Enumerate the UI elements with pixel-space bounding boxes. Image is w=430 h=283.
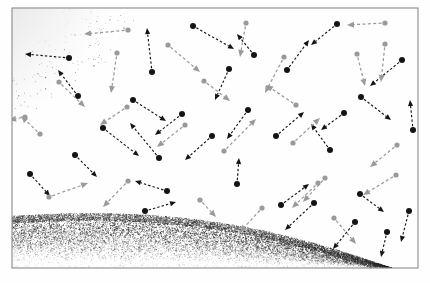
dark-particle-dot [156,155,162,161]
dark-particle-dot [72,152,78,158]
light-particle-dot [290,140,295,145]
dark-particle-dot [179,111,185,117]
dark-particle-dot [352,219,358,225]
dark-particle-dot [66,55,72,61]
dark-particle-dot [327,147,333,153]
figure-canvas [0,0,430,283]
light-particle-dot [331,215,336,220]
light-particle-dot [281,54,286,59]
light-particle-dot [56,79,61,84]
dark-particle-dot [226,66,232,72]
particle-motion-figure [0,0,430,283]
dark-particle-dot [334,21,340,27]
light-particle-dot [46,194,51,199]
light-particle-dot [165,42,170,47]
dark-particle-dot [406,208,412,214]
light-particle-dot [182,122,187,127]
dark-particle-dot [341,110,347,116]
dark-particle-dot [311,200,317,206]
dark-particle-dot [164,188,170,194]
light-particle-dot [259,205,264,210]
dark-particle-dot [234,181,240,187]
dark-particle-dot [142,208,148,214]
light-particle-dot [293,102,298,107]
light-particle-dot [322,175,327,180]
light-particle-dot [125,27,130,32]
dark-particle-dot [399,57,405,63]
dark-particle-dot [410,127,416,133]
dark-particle-dot [251,52,257,58]
dark-particle-dot [278,202,284,208]
dark-particle-dot [100,125,106,131]
light-particle-dot [125,178,130,183]
light-particle-dot [382,41,387,46]
dark-particle-dot [273,133,279,139]
light-particle-dot [201,78,206,83]
dark-particle-dot [75,93,81,99]
dark-particle-dot [358,94,364,100]
light-particle-dot [197,197,202,202]
light-particle-dot [394,142,399,147]
light-particle-dot [221,148,226,153]
dark-particle-dot [27,171,33,177]
dark-particle-dot [284,67,290,73]
light-particle-dot [393,172,398,177]
dark-particle-dot [130,97,136,103]
dark-particle-dot [149,69,155,75]
light-particle-dot [243,20,248,25]
dark-particle-dot [384,229,390,235]
light-particle-dot [124,104,129,109]
light-particle-dot [354,51,359,56]
dark-particle-dot [245,107,251,113]
dark-particle-dot [190,23,196,29]
light-particle-dot [114,50,119,55]
light-particle-dot [37,131,42,136]
light-particle-dot [382,20,387,25]
dark-particle-dot [209,133,215,139]
dark-particle-dot [357,191,363,197]
